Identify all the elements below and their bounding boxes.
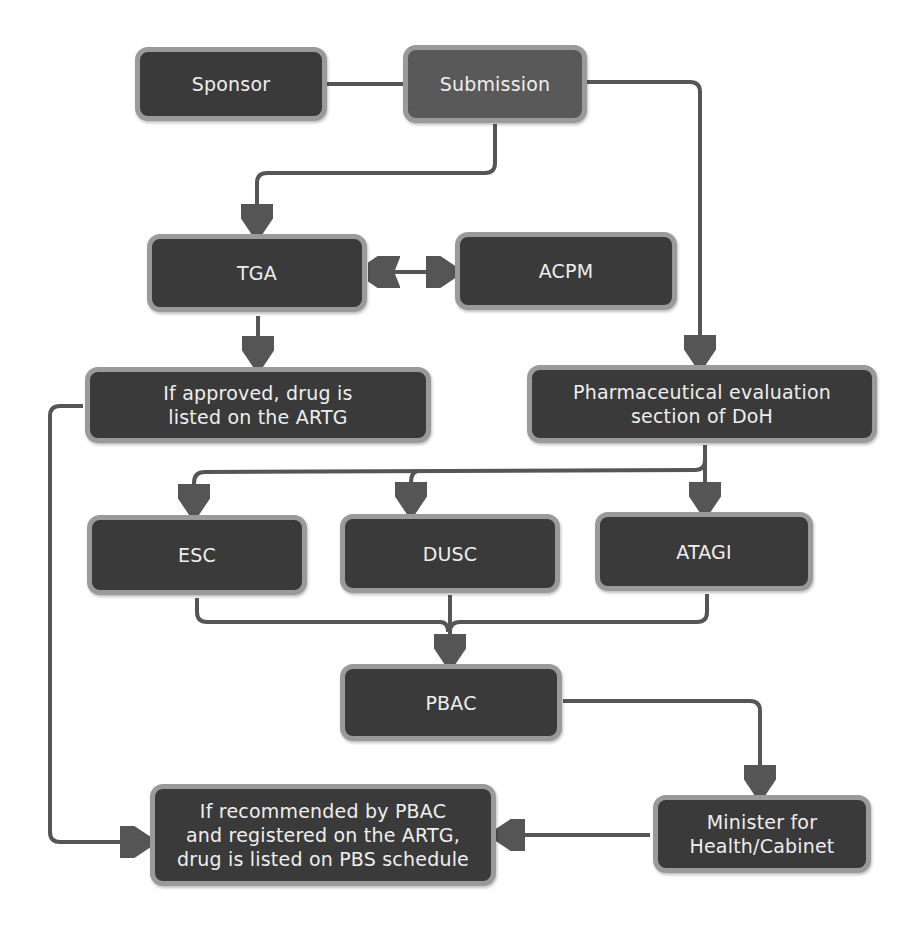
node-minister: Minister for Health/Cabinet: [653, 795, 871, 873]
edge-pharma-dusc: [411, 471, 418, 502]
edge-submission-tga: [257, 124, 495, 224]
node-tga-label: TGA: [237, 261, 277, 285]
node-pbs-listing-label: If recommended by PBAC and registered on…: [177, 799, 469, 871]
node-pbac-label: PBAC: [425, 691, 476, 715]
node-acpm-label: ACPM: [539, 259, 594, 283]
node-esc: ESC: [87, 515, 307, 595]
node-dusc: DUSC: [340, 514, 560, 593]
edge-artg-pbs: [50, 406, 140, 842]
node-tga: TGA: [147, 234, 367, 312]
edge-atagi-pbac: [450, 594, 707, 632]
node-artg-listing: If approved, drug is listed on the ARTG: [85, 367, 431, 443]
node-artg-listing-label: If approved, drug is listed on the ARTG: [163, 381, 352, 429]
node-submission-label: Submission: [440, 72, 551, 96]
node-submission: Submission: [403, 45, 587, 123]
node-sponsor: Sponsor: [135, 47, 327, 121]
edge-submission-pharma: [587, 82, 700, 355]
node-pharma-eval: Pharmaceutical evaluation section of DoH: [527, 365, 877, 443]
node-minister-label: Minister for Health/Cabinet: [689, 810, 834, 858]
node-dusc-label: DUSC: [423, 542, 478, 566]
node-esc-label: ESC: [178, 543, 216, 567]
node-pbac: PBAC: [340, 664, 562, 741]
node-atagi: ATAGI: [595, 512, 813, 591]
node-pharma-eval-label: Pharmaceutical evaluation section of DoH: [573, 380, 831, 428]
node-acpm: ACPM: [455, 232, 677, 310]
edge-pharma-esc: [194, 460, 705, 504]
edge-esc-pbac: [197, 598, 448, 632]
flowchart: Sponsor Submission TGA ACPM If approved,…: [0, 0, 916, 933]
node-sponsor-label: Sponsor: [192, 72, 271, 96]
edge-pbac-minister: [563, 701, 760, 785]
node-atagi-label: ATAGI: [676, 540, 732, 564]
node-pbs-listing: If recommended by PBAC and registered on…: [150, 784, 496, 886]
